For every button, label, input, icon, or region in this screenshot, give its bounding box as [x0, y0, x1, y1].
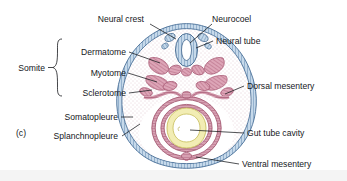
bottom-band	[0, 170, 347, 181]
label-neurocoel: Neurocoel	[212, 14, 251, 24]
label-gut-tube-cavity: Gut tube cavity	[247, 128, 305, 138]
panel-label: (c)	[16, 128, 26, 138]
label-somatopleure: Somatopleure	[64, 112, 118, 122]
somite-brace	[48, 39, 62, 96]
embryo-cross-section-figure: (c) Neural crest Neurocoel Neural tube D…	[0, 0, 347, 181]
gut-tube-cavity	[173, 114, 200, 142]
label-ventral-mesentery: Ventral mesentery	[242, 159, 312, 169]
label-dorsal-mesentery: Dorsal mesentery	[247, 81, 315, 91]
sclerotome-medial	[182, 68, 192, 76]
figure-page: (c) Neural crest Neurocoel Neural tube D…	[0, 0, 347, 181]
label-splanchnopleure: Splanchnopleure	[53, 131, 118, 141]
label-somite: Somite	[18, 63, 45, 73]
label-dermatome: Dermatome	[81, 47, 126, 57]
gut-tube-structure	[161, 104, 212, 151]
label-neural-crest: Neural crest	[98, 14, 145, 24]
label-neural-tube: Neural tube	[216, 36, 261, 46]
ventral-mesentery-node	[182, 152, 192, 159]
label-sclerotome: Sclerotome	[83, 88, 127, 98]
label-myotome: Myotome	[91, 68, 127, 78]
dorsal-mesentery-node	[182, 92, 191, 99]
neural-tube-structure	[176, 34, 198, 67]
